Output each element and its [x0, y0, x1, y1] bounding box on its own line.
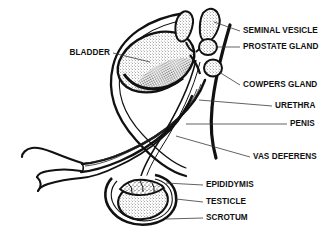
label-cowpers-gland: COWPERS GLAND [243, 80, 317, 89]
label-epididymis: EPIDIDYMIS [206, 180, 254, 189]
penis-shaft [81, 80, 205, 178]
leader-urethra [199, 100, 272, 106]
label-urethra: URETHRA [275, 101, 315, 110]
anatomy-illustration [22, 2, 230, 225]
leader-testicle [176, 199, 203, 202]
prostate-gland-organ [198, 38, 220, 58]
male-reproductive-system-diagram: BLADDER SEMINAL VESICLE PROSTATE GLAND C… [0, 0, 323, 231]
leader-scrotum [166, 218, 203, 219]
label-vas-deferens: VAS DEFERENS [253, 152, 317, 161]
glans-foreskin [22, 148, 84, 191]
label-penis: PENIS [290, 119, 315, 128]
label-testicle: TESTICLE [206, 197, 246, 206]
label-bladder: BLADDER [70, 48, 110, 57]
label-prostate-gland: PROSTATE GLAND [243, 42, 318, 51]
label-scrotum: SCROTUM [206, 213, 248, 222]
leader-cowpers-gland [219, 72, 240, 85]
diagram-page: BLADDER SEMINAL VESICLE PROSTATE GLAND C… [0, 0, 323, 231]
label-seminal-vesicle: SEMINAL VESICLE [243, 26, 318, 35]
